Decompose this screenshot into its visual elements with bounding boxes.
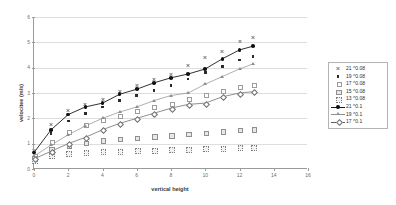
plot-area: 0123456 0246810121416 <box>33 17 307 169</box>
legend-item: 19 ^0.08 <box>331 73 385 81</box>
legend-line <box>331 114 345 115</box>
legend-label: 17 ^0.08 <box>345 80 365 88</box>
x-tick-label: 4 <box>96 173 110 178</box>
x-tick-mark <box>308 168 309 171</box>
x-axis-label: vertical height <box>33 186 307 192</box>
y-tick-label: 3 <box>18 91 30 96</box>
legend-label: 15 ^0.08 <box>345 88 365 96</box>
legend-key <box>331 80 345 88</box>
x-tick-label: 12 <box>233 173 247 178</box>
legend-label: 17 ^0.1 <box>345 118 362 126</box>
legend-key <box>331 118 345 126</box>
legend-item: 13 ^0.08 <box>331 95 385 103</box>
legend-key <box>331 88 345 96</box>
series-line <box>34 92 253 159</box>
filled-square-marker <box>337 75 340 78</box>
x-tick-label: 10 <box>198 173 212 178</box>
y-tick-label: 6 <box>18 15 30 20</box>
series-lines <box>34 17 308 169</box>
legend-item: 19 ^0.1 <box>331 111 385 119</box>
cross-marker <box>336 67 340 71</box>
x-tick-label: 14 <box>267 173 281 178</box>
legend-item: 21 ^0.08 <box>331 65 385 73</box>
x-tick-label: 0 <box>27 173 41 178</box>
legend-label: 21 ^0.08 <box>345 65 365 73</box>
y-tick-label: 1 <box>18 141 30 146</box>
x-tick-label: 6 <box>130 173 144 178</box>
series-line <box>34 46 253 152</box>
chart-legend: 21 ^0.0819 ^0.0817 ^0.0815 ^0.0813 ^0.08… <box>328 62 388 129</box>
y-tick-label: 0 <box>18 167 30 172</box>
legend-item: 15 ^0.08 <box>331 88 385 96</box>
series-line <box>34 64 253 156</box>
open-square-marker <box>337 82 342 87</box>
legend-item: 17 ^0.08 <box>331 80 385 88</box>
legend-line <box>331 107 345 108</box>
x-tick-label: 2 <box>61 173 75 178</box>
y-tick-label: 4 <box>18 65 30 70</box>
y-tick-label: 5 <box>18 40 30 45</box>
legend-key <box>331 73 345 81</box>
legend-label: 19 ^0.08 <box>345 73 365 81</box>
chart-container: velocitee (m/s) vertical height 0123456 … <box>0 0 396 205</box>
legend-item: 17 ^0.1 <box>331 118 385 126</box>
legend-item: 21 ^0.1 <box>331 103 385 111</box>
legend-line <box>331 122 345 123</box>
legend-label: 21 ^0.1 <box>345 103 362 111</box>
legend-label: 13 ^0.08 <box>345 95 365 103</box>
legend-key <box>331 65 345 73</box>
legend-key <box>331 95 345 103</box>
x-tick-label: 8 <box>164 173 178 178</box>
legend-key <box>331 103 345 111</box>
diamond-marker <box>335 119 342 126</box>
legend-label: 19 ^0.1 <box>345 111 362 119</box>
y-tick-label: 2 <box>18 116 30 121</box>
x-tick-label: 16 <box>301 173 315 178</box>
legend-key <box>331 111 345 119</box>
